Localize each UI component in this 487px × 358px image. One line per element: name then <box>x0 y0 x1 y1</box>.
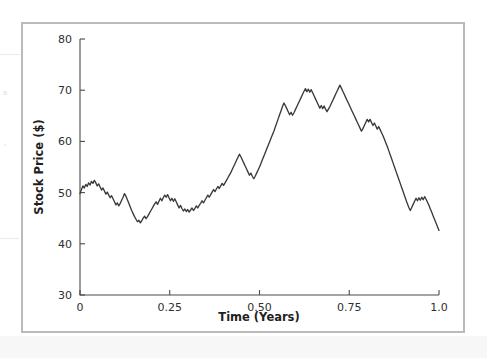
y-axis-title: Stock Price ($) <box>32 119 46 214</box>
artifact-glyph-0: s <box>3 88 7 97</box>
y-tick-label-40: 40 <box>58 238 72 251</box>
artifact-glyph-1: ' <box>4 142 6 151</box>
y-tick-label-70: 70 <box>58 84 72 97</box>
x-axis-title: Time (Years) <box>218 310 299 324</box>
y-tick-label-50: 50 <box>58 187 72 200</box>
y-axis-ticks <box>80 39 85 295</box>
artifact-rule-lower <box>0 238 19 239</box>
x-axis-ticks <box>80 290 439 295</box>
y-tick-label-30: 30 <box>58 289 72 302</box>
y-axis-tick-labels: 304050607080 <box>58 33 72 302</box>
y-tick-label-60: 60 <box>58 135 72 148</box>
x-tick-label-0.75: 0.75 <box>337 301 362 314</box>
x-tick-label-1.0: 1.0 <box>430 301 448 314</box>
figure-frame: 304050607080 00.250.500.751.0 Stock Pric… <box>21 22 465 333</box>
x-tick-label-0: 0 <box>77 301 84 314</box>
x-tick-label-0.25: 0.25 <box>158 301 183 314</box>
chart-plot-area: 304050607080 00.250.500.751.0 Stock Pric… <box>23 24 463 331</box>
y-tick-label-80: 80 <box>58 33 72 46</box>
page-bottom-wash <box>0 336 487 358</box>
artifact-rule-upper <box>0 54 20 55</box>
stock-price-series <box>80 85 439 230</box>
stock-price-line-chart: 304050607080 00.250.500.751.0 Stock Pric… <box>23 24 463 331</box>
